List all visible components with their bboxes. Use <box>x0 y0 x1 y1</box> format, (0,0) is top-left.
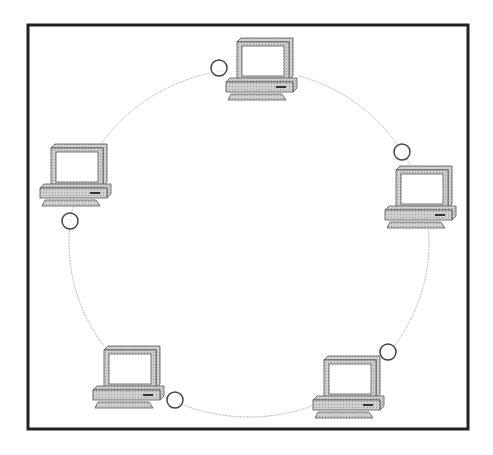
ring-topology-diagram <box>0 0 493 455</box>
computer-bottom-right-icon <box>313 356 384 418</box>
computer-right-icon <box>385 166 456 228</box>
computer-nodes <box>40 38 457 419</box>
connector-bottom-right-icon <box>380 344 396 360</box>
computer-top-icon <box>226 38 297 100</box>
connector-right-icon <box>394 144 410 160</box>
connector-bottom-left-icon <box>167 392 183 408</box>
connector-left-icon <box>62 213 78 229</box>
computer-left-icon <box>40 144 111 206</box>
computer-bottom-left-icon <box>93 346 164 408</box>
connector-top-icon <box>211 60 227 76</box>
